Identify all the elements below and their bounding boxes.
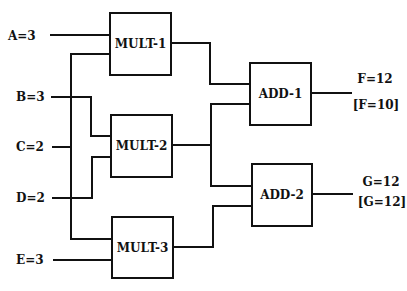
add-2-label: ADD-2 [259,188,304,202]
input-label-c: C=2 [16,140,44,154]
mult-3-label: MULT-3 [117,241,168,255]
wire-mult3-to-add2 [173,206,252,247]
input-label-a: A=3 [7,29,36,43]
wire-d-to-mult2 [52,157,111,198]
output-f-observed: F=12 [357,72,392,86]
wire-mult2-to-add2 [211,145,252,186]
wire-c-bus [71,54,112,239]
output-g-predicted: [G=12] [358,195,406,209]
circuit-diagram: A=3 B=3 C=2 D=2 E=3 MULT-1 MULT-2 MULT-3… [0,0,407,291]
input-label-b: B=3 [16,90,45,104]
wire-mult1-to-add1 [171,43,251,84]
wire-b-to-mult2 [51,97,111,136]
wire-mult2-to-add1 [172,104,251,145]
add-1-label: ADD-1 [258,87,303,101]
mult-2-label: MULT-2 [116,139,167,153]
mult-1-label: MULT-1 [115,37,166,51]
output-f-predicted: [F=10] [353,98,400,112]
input-label-d: D=2 [16,191,45,205]
input-label-e: E=3 [16,253,44,267]
output-g-observed: G=12 [362,175,399,189]
